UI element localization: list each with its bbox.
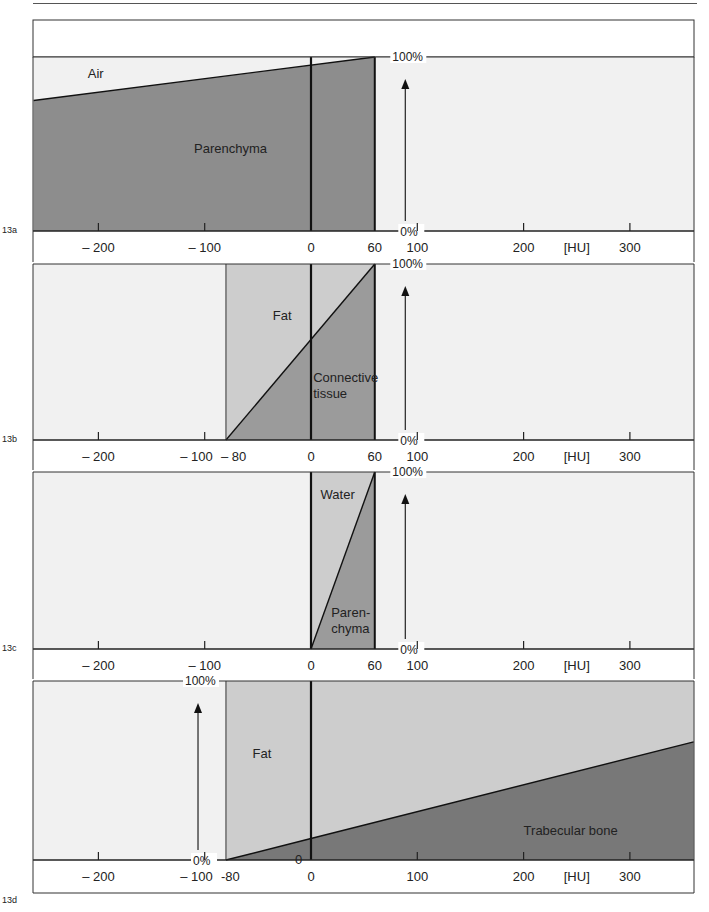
x-tick-label: 100 [406,869,428,884]
x-unit-label: [HU] [564,449,590,464]
x-tick-label: – 200 [82,240,115,255]
y-tick-label-100: 100% [185,674,216,688]
x-tick-label: 0 [307,869,314,884]
region-label: tissue [313,386,347,401]
x-tick-label: – 100 [180,449,213,464]
y-tick-label-0: 0% [400,643,418,657]
panel-13c: 100%0%– 200– 100060100200300[HU]WaterPar… [2,465,694,679]
region-label: chyma [331,621,370,636]
region-label: Paren- [331,605,370,620]
x-tick-label: 60 [368,449,382,464]
panel-13a: 100%0%– 200– 100060100200300[HU]AirParen… [2,50,694,262]
region-label: Fat [273,308,292,323]
x-tick-label: 300 [619,869,641,884]
x-tick-label: – 100 [188,658,221,673]
x-tick-label: 0 [307,658,314,673]
x-tick-label: – 200 [82,449,115,464]
x-axis-band [33,231,694,262]
y-tick-label-100: 100% [392,257,423,271]
region-label: Fat [253,746,272,761]
x-tick-label: 0 [307,449,314,464]
x-axis-band [33,649,694,679]
panel-id-label: 13d [2,895,17,905]
x-tick-label: 100 [406,658,428,673]
figure-top-strip [33,20,694,57]
panel-13d: 100%0%– 200– 100-800100200300[HU]FatTrab… [2,674,694,905]
x-tick-label: 300 [619,658,641,673]
x-tick-label: – 200 [82,869,115,884]
x-tick-label: 100 [406,449,428,464]
x-tick-label: – 100 [188,240,221,255]
x-tick-label: 100 [406,240,428,255]
y-tick-label-100: 100% [392,465,423,479]
x-tick-label: 200 [513,658,535,673]
x-tick-label: 60 [368,658,382,673]
x-tick-label: -80 [221,869,240,884]
region-label: Parenchyma [194,141,268,156]
hu-composition-figure: 100%0%– 200– 100060100200300[HU]AirParen… [0,0,709,912]
zero-marker-label: 0 [295,852,302,867]
panel-id-label: 13c [2,643,17,653]
x-axis-band [33,440,694,470]
x-unit-label: [HU] [564,869,590,884]
x-tick-label: – 80 [221,449,246,464]
x-tick-label: – 200 [82,658,115,673]
y-tick-label-0: 0% [400,225,418,239]
y-tick-label-100: 100% [392,50,423,64]
region-label: Connective [313,370,378,385]
x-tick-label: 300 [619,240,641,255]
x-tick-label: 200 [513,449,535,464]
x-unit-label: [HU] [564,240,590,255]
x-tick-label: 200 [513,240,535,255]
x-tick-label: 0 [307,240,314,255]
x-tick-label: 300 [619,449,641,464]
y-tick-label-0: 0% [193,854,211,868]
y-tick-label-0: 0% [400,434,418,448]
x-tick-label: – 100 [180,869,213,884]
panel-13b: 100%0%– 200– 100– 80060100200300[HU]FatC… [2,257,694,470]
x-tick-label: 60 [368,240,382,255]
x-tick-label: 200 [513,869,535,884]
x-unit-label: [HU] [564,658,590,673]
panel-id-label: 13a [2,225,17,235]
region-label: Water [321,487,356,502]
panel-id-label: 13b [2,434,17,444]
x-axis-band [33,860,694,893]
region-label: Trabecular bone [524,823,618,838]
region-label: Air [88,66,105,81]
